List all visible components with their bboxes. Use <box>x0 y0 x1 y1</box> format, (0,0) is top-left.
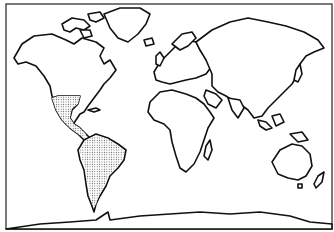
tasmania <box>298 184 302 188</box>
iceland <box>144 38 154 46</box>
world-map <box>0 0 334 232</box>
